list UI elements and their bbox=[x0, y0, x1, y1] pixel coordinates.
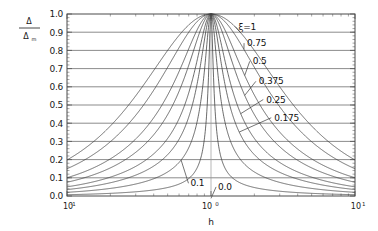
series-label-1: ξ=1 bbox=[238, 22, 256, 32]
y-tick-label: 0.8 bbox=[50, 46, 64, 56]
y-tick-label: 0.9 bbox=[50, 28, 64, 38]
series-label-0.0: 0.0 bbox=[218, 182, 232, 192]
x-tick-exponent: 1 bbox=[362, 201, 366, 207]
series-label-0.75: 0.75 bbox=[247, 38, 266, 48]
y-tick-label: 0.1 bbox=[50, 173, 63, 183]
x-tick-exponent: 0 bbox=[215, 201, 219, 207]
y-tick-label: 0.6 bbox=[50, 82, 64, 92]
y-tick-label: 1.0 bbox=[50, 9, 64, 19]
series-label-0.175: 0.175 bbox=[274, 113, 299, 123]
x-tick-label: 10 bbox=[351, 202, 361, 211]
y-tick-label: 0.3 bbox=[50, 137, 63, 147]
x-axis-title: h bbox=[208, 217, 214, 227]
y-tick-label: 0.2 bbox=[50, 155, 63, 165]
x-tick-exponent: -1 bbox=[70, 201, 75, 207]
x-tick-label: 10 bbox=[202, 202, 212, 211]
chart-figure: 0.00.10.20.30.40.50.60.70.80.91.0 10-110… bbox=[0, 0, 378, 231]
y-axis-title-numerator: Δ bbox=[26, 17, 32, 26]
series-label-0.25: 0.25 bbox=[266, 95, 285, 105]
y-tick-label: 0.0 bbox=[50, 191, 64, 201]
series-label-0.375: 0.375 bbox=[259, 76, 284, 86]
y-tick-label: 0.4 bbox=[50, 119, 64, 129]
y-tick-label: 0.7 bbox=[50, 64, 63, 74]
y-axis-title-denominator: Δ bbox=[23, 32, 29, 41]
y-axis-title-subscript: m bbox=[32, 36, 37, 42]
resonance-curve-chart: 0.00.10.20.30.40.50.60.70.80.91.0 10-110… bbox=[0, 0, 378, 231]
series-label-0.1: 0.1 bbox=[190, 178, 204, 188]
series-label-0.5: 0.5 bbox=[253, 56, 267, 66]
y-tick-label: 0.5 bbox=[50, 100, 63, 110]
